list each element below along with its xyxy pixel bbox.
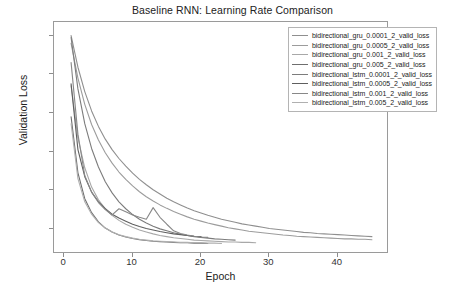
x-tick-label: 40 bbox=[317, 256, 357, 267]
y-tick-mark bbox=[49, 189, 53, 190]
legend-item[interactable]: bidirectional_gru_0.005_2_valid_loss bbox=[292, 60, 432, 70]
legend-color-swatch bbox=[292, 35, 308, 36]
legend-label: bidirectional_gru_0.0001_2_valid_loss bbox=[312, 32, 429, 39]
legend-color-swatch bbox=[292, 64, 308, 65]
x-tick-label: 0 bbox=[43, 256, 83, 267]
x-tick-mark bbox=[63, 253, 64, 257]
legend-item[interactable]: bidirectional_lstm_0.001_2_valid_loss bbox=[292, 89, 432, 99]
legend-color-swatch bbox=[292, 102, 308, 103]
legend-label: bidirectional_lstm_0.0001_2_valid_loss bbox=[312, 71, 432, 78]
chart-title: Baseline RNN: Learning Rate Comparison bbox=[0, 4, 465, 16]
legend-item[interactable]: bidirectional_lstm_0.0005_2_valid_loss bbox=[292, 79, 432, 89]
series-line bbox=[71, 117, 208, 244]
legend-item[interactable]: bidirectional_gru_0.001_2_valid_loss bbox=[292, 50, 432, 60]
legend-color-swatch bbox=[292, 83, 308, 84]
series-line bbox=[71, 124, 221, 244]
legend-item[interactable]: bidirectional_gru_0.0001_2_valid_loss bbox=[292, 31, 432, 41]
x-tick-label: 30 bbox=[248, 256, 288, 267]
legend-color-swatch bbox=[292, 74, 308, 75]
y-tick-mark bbox=[49, 151, 53, 152]
x-tick-label: 20 bbox=[180, 256, 220, 267]
legend-label: bidirectional_gru_0.001_2_valid_loss bbox=[312, 51, 425, 58]
legend-label: bidirectional_lstm_0.001_2_valid_loss bbox=[312, 90, 428, 97]
legend-color-swatch bbox=[292, 93, 308, 94]
y-tick-mark bbox=[49, 228, 53, 229]
x-tick-mark bbox=[132, 253, 133, 257]
chart-legend: bidirectional_gru_0.0001_2_valid_lossbid… bbox=[288, 27, 437, 112]
legend-color-swatch bbox=[292, 54, 308, 55]
legend-label: bidirectional_lstm_0.0005_2_valid_loss bbox=[312, 80, 432, 87]
legend-item[interactable]: bidirectional_lstm_0.0001_2_valid_loss bbox=[292, 69, 432, 79]
legend-label: bidirectional_lstm_0.005_2_valid_loss bbox=[312, 99, 428, 106]
y-axis-label: Validation Loss bbox=[17, 40, 29, 180]
legend-item[interactable]: bidirectional_gru_0.0005_2_valid_loss bbox=[292, 41, 432, 51]
y-tick-mark bbox=[49, 73, 53, 74]
legend-item[interactable]: bidirectional_lstm_0.005_2_valid_loss bbox=[292, 98, 432, 108]
legend-label: bidirectional_gru_0.0005_2_valid_loss bbox=[312, 42, 429, 49]
chart-figure: Baseline RNN: Learning Rate Comparison V… bbox=[0, 0, 465, 298]
x-tick-label: 10 bbox=[112, 256, 152, 267]
x-tick-mark bbox=[268, 253, 269, 257]
x-tick-mark bbox=[337, 253, 338, 257]
y-tick-mark bbox=[49, 35, 53, 36]
legend-label: bidirectional_gru_0.005_2_valid_loss bbox=[312, 61, 425, 68]
x-tick-mark bbox=[200, 253, 201, 257]
legend-color-swatch bbox=[292, 45, 308, 46]
series-line bbox=[71, 86, 256, 243]
series-line bbox=[71, 37, 235, 240]
x-axis-label: Epoch bbox=[53, 270, 388, 282]
y-tick-mark bbox=[49, 112, 53, 113]
